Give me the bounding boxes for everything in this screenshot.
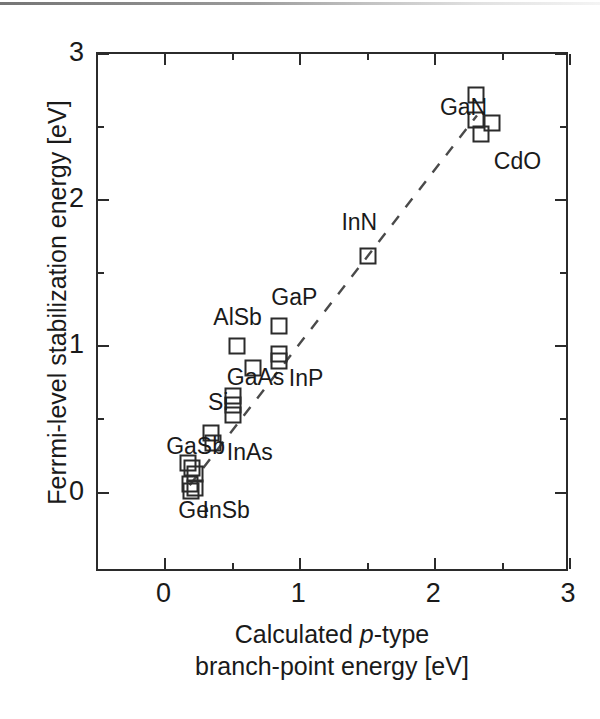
x-axis-title-line1: Calculated p-type [96, 618, 568, 650]
axis-tick-y [98, 272, 104, 274]
y-tick-label: 3 [69, 39, 84, 66]
axis-tick-y [98, 418, 104, 420]
x-axis-title: Calculated p-type branch-point energy [e… [96, 618, 568, 682]
point-label-si: Si [208, 391, 228, 414]
y-tick-label: 1 [69, 331, 84, 358]
point-label-inn: InN [341, 211, 377, 234]
x-tick-label: 3 [560, 580, 575, 607]
axis-tick-x [434, 54, 436, 65]
axis-tick-x [367, 54, 369, 60]
point-label-inas: InAs [227, 441, 273, 464]
x-axis-title-italic-p: p [360, 620, 374, 648]
axis-tick-x [232, 54, 234, 60]
axis-tick-x [299, 54, 301, 65]
axis-tick-x [367, 563, 369, 569]
point-label-cdo: CdO [494, 150, 541, 173]
axis-tick-y [560, 418, 566, 420]
axis-tick-y [555, 199, 566, 201]
axis-tick-y [98, 126, 104, 128]
x-tick-label: 1 [291, 580, 306, 607]
x-axis-title-pre: Calculated [235, 620, 360, 648]
axis-tick-y [555, 492, 566, 494]
axis-tick-y [555, 53, 566, 55]
x-axis-title-line2: branch-point energy [eV] [96, 650, 568, 682]
axis-tick-y [98, 345, 109, 347]
axis-tick-y [560, 126, 566, 128]
x-axis-title-post: -type [374, 620, 430, 648]
x-tick-label: 0 [156, 580, 171, 607]
point-label-gasb: GaSb [166, 435, 225, 458]
point-label-gan: GaN [440, 96, 487, 119]
data-point-marker [472, 126, 489, 143]
axis-tick-x [232, 563, 234, 569]
x-tick-label: 2 [426, 580, 441, 607]
axis-tick-x [502, 54, 504, 60]
point-label-gaas: GaAs [227, 366, 285, 389]
axis-tick-x [164, 54, 166, 65]
data-point-marker [359, 247, 376, 264]
point-label-insb: InSb [203, 499, 250, 522]
y-tick-label: 2 [69, 185, 84, 212]
axis-tick-x [299, 558, 301, 569]
scatter-chart-figure: Calculated p-type branch-point energy [e… [0, 0, 600, 719]
trend-line-dashed [98, 54, 570, 573]
point-label-inp: InP [289, 367, 324, 390]
data-point-marker [228, 338, 245, 355]
axis-tick-y [555, 345, 566, 347]
axis-tick-x [502, 563, 504, 569]
data-point-marker [270, 317, 287, 334]
axis-tick-y [98, 199, 109, 201]
point-label-alsb: AlSb [213, 306, 262, 329]
axis-tick-x [434, 558, 436, 569]
axis-tick-x [569, 54, 571, 65]
axis-tick-y [560, 272, 566, 274]
y-axis-title: Ferrmi-level stabilization energy [eV] [43, 43, 72, 563]
axis-tick-x [164, 558, 166, 569]
plot-area-frame [96, 52, 568, 571]
axis-tick-y [98, 492, 109, 494]
y-tick-label: 0 [69, 477, 84, 504]
axis-tick-y [98, 53, 109, 55]
axis-tick-x [569, 558, 571, 569]
point-label-gap: GaP [271, 286, 317, 309]
